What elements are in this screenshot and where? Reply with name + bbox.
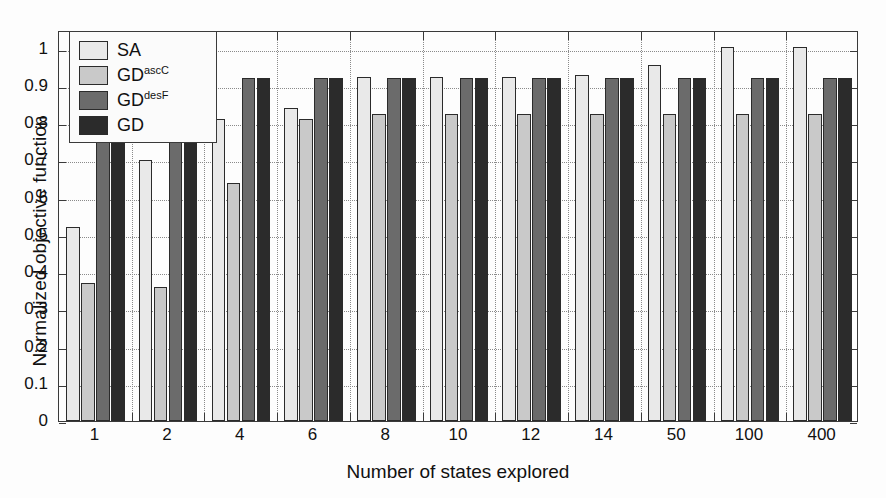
bar-GDdesF-50 [678,78,692,421]
y-tick-label: 0.6 [0,188,48,208]
x-tick-label: 2 [162,425,171,445]
chart-figure: Normalized objective function Number of … [0,0,886,498]
legend-swatch-SA [79,41,108,60]
legend-item-GDdesF: GDdesF [79,88,168,112]
bar-GDdesF-8 [387,78,401,421]
y-tick-mark-right [850,423,857,424]
bar-GDascC-12 [517,114,531,421]
x-tick-mark-top [495,32,496,40]
legend-swatch-GD [79,116,108,135]
bar-SA-6 [284,108,298,421]
x-tick-mark [132,413,133,421]
x-axis-title: Number of states explored [58,461,858,483]
y-tick-mark [59,125,66,126]
y-tick-mark [59,51,66,52]
x-tick-mark [423,413,424,421]
x-tick-mark [277,413,278,421]
bar-SA-100 [721,47,735,421]
bar-GDascC-14 [590,114,604,421]
legend-label-GD: GD [117,116,144,134]
bar-GDdesF-4 [242,78,256,421]
bar-SA-4 [212,119,226,421]
x-tick-mark [714,413,715,421]
y-tick-label: 0.8 [0,113,48,133]
bar-SA-400 [793,47,807,421]
bar-GDascC-4 [227,183,241,421]
x-tick-mark [641,413,642,421]
bar-GDdesF-400 [823,78,837,421]
x-tick-label: 12 [521,425,540,445]
bar-GDascC-1 [81,283,95,421]
chart-legend: SAGDascCGDdesFGD [69,31,217,143]
x-gridline [786,32,787,421]
x-tick-mark [568,413,569,421]
legend-label-GDdesF: GDdesF [117,91,168,109]
y-tick-mark [59,274,66,275]
bar-GDdesF-6 [314,78,328,421]
y-tick-mark [59,162,66,163]
y-tick-mark-right [850,51,857,52]
y-tick-label: 1 [0,39,48,59]
bar-GD-400 [838,78,852,421]
bar-SA-14 [575,75,589,421]
x-tick-mark-top [786,32,787,40]
bar-GD-8 [402,78,416,421]
x-tick-label: 14 [594,425,613,445]
y-tick-label: 0 [0,411,48,431]
bar-GD-6 [329,78,343,421]
bar-GDdesF-100 [751,78,765,421]
bar-SA-50 [648,65,662,421]
y-tick-mark [59,423,66,424]
x-gridline [568,32,569,421]
y-tick-mark [59,237,66,238]
bar-GDascC-8 [372,114,386,421]
legend-swatch-GDascC [79,66,108,85]
legend-item-SA: SA [79,38,141,62]
bar-GDdesF-12 [532,78,546,421]
legend-item-GDascC: GDascC [79,63,169,87]
x-tick-label: 8 [381,425,390,445]
bar-SA-8 [357,77,371,421]
x-tick-mark-top [423,32,424,40]
bar-SA-10 [430,77,444,421]
bar-GD-14 [620,78,634,421]
x-gridline [714,32,715,421]
x-gridline [350,32,351,421]
bar-GDdesF-14 [605,78,619,421]
legend-label-GDascC: GDascC [117,66,169,84]
bar-GD-100 [766,78,780,421]
x-tick-label: 50 [667,425,686,445]
x-tick-label: 1 [90,425,99,445]
y-tick-mark [59,200,66,201]
bar-SA-1 [66,227,80,421]
x-tick-label: 400 [807,425,835,445]
bar-GDascC-2 [154,287,168,421]
bar-GD-10 [475,78,489,421]
x-tick-mark-top [277,32,278,40]
y-tick-label: 0.7 [0,150,48,170]
legend-item-GD: GD [79,113,144,137]
y-tick-label: 0.9 [0,76,48,96]
x-gridline [641,32,642,421]
x-tick-label: 10 [449,425,468,445]
x-tick-label: 100 [735,425,763,445]
x-gridline [495,32,496,421]
bar-GD-4 [257,78,271,421]
x-gridline [277,32,278,421]
bar-GDascC-400 [808,114,822,421]
x-tick-mark [495,413,496,421]
y-tick-label: 0.1 [0,374,48,394]
bar-GDascC-100 [736,114,750,421]
bar-GDascC-6 [299,119,313,421]
x-tick-label: 4 [235,425,244,445]
x-tick-label: 6 [308,425,317,445]
x-tick-mark-top [641,32,642,40]
x-gridline [423,32,424,421]
y-tick-mark [59,88,66,89]
x-tick-mark-top [568,32,569,40]
y-tick-label: 0.2 [0,337,48,357]
bar-GDascC-50 [663,114,677,421]
bar-GDascC-10 [445,114,459,421]
x-tick-mark [350,413,351,421]
bar-GDdesF-10 [460,78,474,421]
